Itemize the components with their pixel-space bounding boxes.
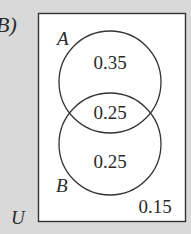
b-only-value: 0.25 [93,151,126,172]
venn-diagram: B) A B U 0.35 0.25 0.25 0.15 [0,0,191,234]
intersection-value: 0.25 [93,102,126,123]
universe-label: U [11,207,26,228]
outside-value: 0.15 [138,196,171,217]
set-a-label: A [55,28,69,49]
venn-diagram-figure: B) A B U 0.35 0.25 0.25 0.15 [0,0,191,234]
set-b-label: B [56,175,68,196]
a-only-value: 0.35 [93,52,126,73]
prefix-label: B) [0,12,17,37]
